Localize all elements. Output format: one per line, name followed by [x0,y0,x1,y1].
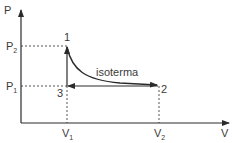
p1-label: P1 [6,80,17,94]
v2-label: V2 [154,127,165,141]
x-axis-label: V [221,127,229,139]
point-1-label: 1 [64,31,70,43]
p2-label: P2 [6,40,17,54]
pv-diagram: P V P2 P1 V1 V2 1 2 3 isoterma [0,0,232,143]
point-2-label: 2 [161,83,167,95]
isotherm-label: isoterma [96,66,139,78]
v1-label: V1 [62,127,73,141]
point-3-label: 3 [57,87,63,99]
y-axis-label: P [4,4,11,16]
